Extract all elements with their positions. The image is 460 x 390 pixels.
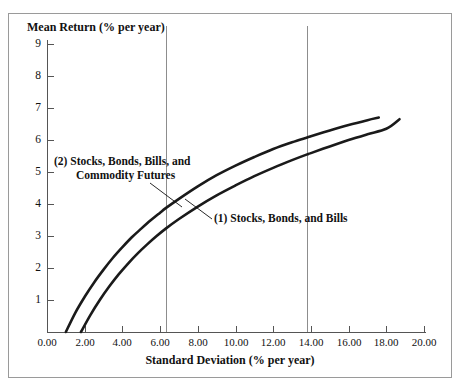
y-tick-label-text: 7 [27, 102, 41, 114]
y-tick-mark [48, 300, 54, 301]
x-tick-mark [236, 326, 237, 332]
series-2-number: (2) [54, 155, 67, 167]
x-tick-label: 6.00 [140, 336, 180, 348]
y-tick-mark [48, 140, 54, 141]
x-tick-label: 2.00 [65, 336, 105, 348]
y-tick-label: 6 [27, 134, 41, 146]
y-tick-mark [48, 44, 54, 45]
x-tick-label: 20.00 [404, 336, 444, 348]
x-tick-mark [386, 326, 387, 332]
series-1-number: (1) [214, 212, 227, 224]
x-tick-mark [160, 326, 161, 332]
vline-right [307, 26, 308, 332]
x-tick-mark [47, 326, 48, 332]
y-tick-label: 7 [27, 102, 41, 114]
y-tick-label: 4 [27, 198, 41, 210]
series-1-label-line1: Stocks, Bonds, and Bills [230, 212, 347, 224]
x-tick-label: 16.00 [329, 336, 369, 348]
y-tick-label-text: 9 [27, 38, 41, 50]
x-tick-label: 0.00 [27, 336, 67, 348]
y-tick-label: 8 [27, 70, 41, 82]
y-tick-mark [48, 108, 54, 109]
y-axis-line [47, 40, 48, 333]
y-tick-mark [48, 204, 54, 205]
x-axis-title: Standard Deviation (% per year) [0, 353, 460, 368]
y-tick-label-text: 5 [27, 166, 41, 178]
y-tick-label: 1 [27, 294, 41, 306]
y-tick-label-text: 2 [27, 262, 41, 274]
x-tick-label: 12.00 [253, 336, 293, 348]
x-tick-label: 8.00 [178, 336, 218, 348]
series-1-annotation: (1) Stocks, Bonds, and Bills [214, 212, 348, 226]
x-tick-mark [273, 326, 274, 332]
series-2-label-line1: Stocks, Bonds, Bills, and [70, 155, 190, 167]
x-tick-mark [424, 326, 425, 332]
figure-border [8, 13, 452, 378]
x-tick-mark [85, 326, 86, 332]
x-tick-label: 18.00 [366, 336, 406, 348]
x-tick-label: 10.00 [216, 336, 256, 348]
y-tick-label-text: 3 [27, 230, 41, 242]
y-tick-label-text: 6 [27, 134, 41, 146]
x-tick-mark [122, 326, 123, 332]
y-tick-label: 9 [27, 38, 41, 50]
series-2-label-line2: Commodity Futures [54, 169, 190, 183]
y-tick-label-text: 8 [27, 70, 41, 82]
y-axis-title: Mean Return (% per year) [27, 20, 165, 35]
y-tick-mark [48, 76, 54, 77]
y-tick-label: 5 [27, 166, 41, 178]
y-tick-label-text: 4 [27, 198, 41, 210]
x-tick-mark [311, 326, 312, 332]
x-tick-label: 14.00 [291, 336, 331, 348]
y-tick-label: 2 [27, 262, 41, 274]
series-2-annotation: (2) Stocks, Bonds, Bills, and Commodity … [54, 155, 190, 182]
y-tick-mark [48, 236, 54, 237]
x-tick-mark [349, 326, 350, 332]
x-tick-mark [198, 326, 199, 332]
y-tick-label-text: 1 [27, 294, 41, 306]
y-tick-mark [48, 268, 54, 269]
x-tick-label: 4.00 [102, 336, 142, 348]
y-tick-label: 3 [27, 230, 41, 242]
x-axis-line [47, 332, 426, 333]
chart-figure: Mean Return (% per year) 123456789 0.002… [0, 0, 460, 390]
